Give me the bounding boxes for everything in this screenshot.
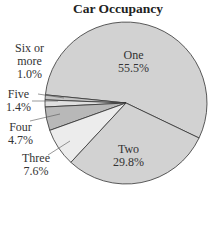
slice-label-two: Two 29.8% (113, 143, 144, 169)
slice-label-one: One 55.5% (118, 49, 149, 75)
label-value: 7.6% (22, 165, 50, 178)
slice-label-four: Four 4.7% (8, 121, 33, 147)
slice-label-six-or-more: Six or more 1.0% (15, 42, 44, 81)
label-value: 1.4% (6, 101, 31, 114)
label-value: 29.8% (113, 156, 144, 169)
slice-label-five: Five 1.4% (6, 88, 31, 114)
slice-label-three: Three 7.6% (22, 152, 50, 178)
label-value: 1.0% (15, 68, 44, 81)
label-value: 55.5% (118, 62, 149, 75)
label-value: 4.7% (8, 134, 33, 147)
